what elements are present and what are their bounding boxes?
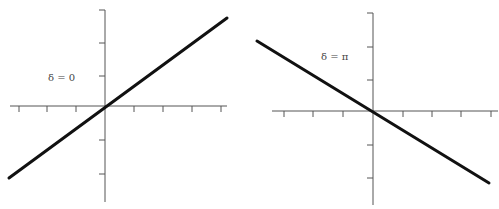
panel-delta-zero: δ = 0 (9, 10, 227, 202)
trace-line-positive-slope (9, 18, 227, 178)
panel-delta-pi: δ = π (257, 13, 498, 205)
x-axis-ticks (284, 111, 491, 117)
phase-label: δ = 0 (48, 72, 75, 83)
phase-diagrams: δ = 0 δ = π (0, 0, 499, 209)
x-axis-ticks (19, 106, 221, 112)
y-axis-ticks (367, 13, 373, 178)
y-axis-ticks (99, 10, 105, 174)
phase-label: δ = π (321, 51, 349, 62)
